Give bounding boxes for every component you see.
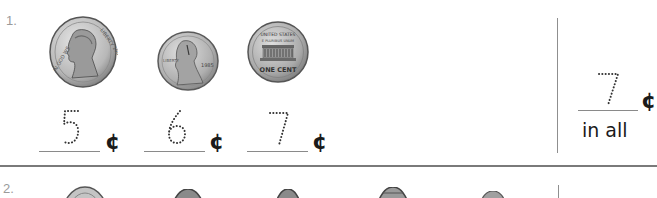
cent-sign-3: ¢ (312, 131, 327, 153)
nickel-icon (60, 186, 110, 198)
problem-number-1: 1. (6, 13, 17, 28)
svg-text:1985: 1985 (201, 62, 214, 68)
svg-text:ONE CENT: ONE CENT (260, 66, 297, 74)
cent-sign-1: ¢ (105, 131, 120, 153)
column-divider-1 (557, 18, 558, 153)
problem-divider (0, 165, 657, 167)
svg-text:E PLURIBUS UNUM: E PLURIBUS UNUM (262, 39, 294, 43)
total-answer-line[interactable] (578, 110, 638, 111)
answer-line-3[interactable] (247, 151, 308, 152)
answer-line-1[interactable] (39, 151, 100, 152)
dotted-digit-7 (267, 110, 291, 148)
dotted-digit-5 (60, 108, 84, 146)
dotted-digit-total-7 (596, 71, 620, 109)
penny-icon (375, 187, 411, 198)
column-divider-2 (558, 185, 559, 198)
svg-text:LIBERTY: LIBERTY (163, 58, 180, 63)
svg-text:UNITED STATES: UNITED STATES (261, 32, 296, 37)
dotted-digit-6 (165, 108, 189, 146)
penny-heads-icon: 1985 LIBERTY (157, 31, 219, 91)
total-cent-sign: ¢ (641, 90, 656, 112)
penny-icon (273, 189, 303, 198)
penny-icon (480, 191, 506, 198)
penny-tails-icon: UNITED STATES E PLURIBUS UNUM ONE CENT (247, 21, 309, 83)
answer-line-2[interactable] (144, 151, 205, 152)
problem-number-2: 2. (3, 181, 14, 196)
cent-sign-2: ¢ (209, 131, 224, 153)
nickel-icon: IN GOD WE LIBERTY 1983 (48, 16, 118, 88)
penny-icon (170, 189, 206, 198)
in-all-label: in all (582, 120, 628, 140)
